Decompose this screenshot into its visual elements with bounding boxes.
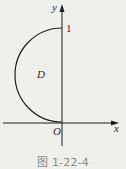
y-axis-label: y — [52, 2, 57, 13]
diagram-canvas — [0, 0, 126, 169]
y-axis-arrow-icon — [60, 4, 65, 12]
x-axis-label: x — [114, 123, 119, 134]
figure-caption: 图 1-22-4 — [0, 153, 126, 169]
y-tick-label-1: 1 — [66, 23, 72, 34]
x-axis — [3, 121, 119, 126]
origin-label: O — [53, 126, 61, 137]
region-label-d: D — [37, 69, 45, 80]
